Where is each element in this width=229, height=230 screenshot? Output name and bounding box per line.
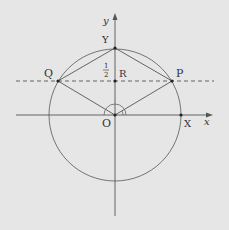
label-half-numerator: 1 (104, 62, 108, 70)
point-Y (113, 46, 116, 49)
point-Q (56, 79, 59, 82)
label-half-denominator: 2 (104, 71, 108, 79)
label-X: X (184, 118, 192, 129)
label-P: P (176, 67, 184, 80)
diagram-canvas: y Y Q P R 1 2 O X x (0, 0, 229, 230)
label-y-axis: y (102, 15, 109, 26)
point-P (170, 79, 173, 82)
point-X (179, 113, 182, 116)
label-x-axis: x (204, 116, 210, 127)
label-Q: Q (44, 67, 53, 80)
label-R: R (119, 68, 127, 79)
y-axis-arrow-icon (113, 13, 118, 20)
point-R (113, 79, 116, 82)
angle-arc-POX (122, 111, 123, 115)
label-O: O (102, 117, 111, 130)
label-Y: Y (101, 34, 109, 45)
unit-circle-diagram: y Y Q P R 1 2 O X x (0, 0, 229, 230)
point-O (113, 113, 116, 116)
